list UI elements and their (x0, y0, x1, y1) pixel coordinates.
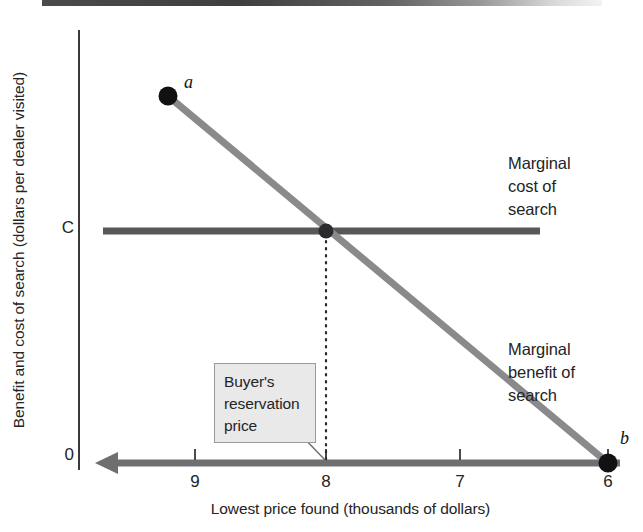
x-axis-arrow (95, 452, 620, 474)
chart-plot-area (0, 0, 643, 532)
x-axis-title: Lowest price found (thousands of dollars… (78, 500, 623, 518)
point-b-marker (599, 454, 618, 473)
x-tick-label-7: 7 (440, 472, 480, 492)
x-tick-label-6: 6 (588, 472, 628, 492)
x-tick-label-8: 8 (306, 472, 346, 492)
search-model-figure: Benefit and cost of search (dollars per … (0, 0, 643, 532)
point-b-label: b (620, 428, 629, 449)
y-tick-label-c: C (44, 218, 74, 238)
point-a-marker (159, 87, 178, 106)
marginal-benefit-label: Marginal benefit of search (508, 338, 575, 407)
point-a-label: a (184, 72, 193, 93)
intersection-point-marker (319, 224, 334, 239)
x-axis-ticks (195, 449, 608, 460)
y-tick-label-zero: 0 (44, 445, 74, 465)
y-axis-line (78, 30, 80, 470)
buyers-reservation-price-callout: Buyer's reservation price (214, 363, 316, 443)
y-axis-title: Benefit and cost of search (dollars per … (6, 30, 32, 470)
scan-artifact-strip (42, 0, 602, 6)
x-tick-label-9: 9 (175, 472, 215, 492)
marginal-cost-label: Marginal cost of search (508, 152, 570, 221)
